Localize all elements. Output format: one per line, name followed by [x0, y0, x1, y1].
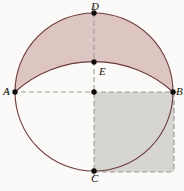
point-label-d: D	[91, 1, 99, 12]
point-label-c: C	[91, 173, 98, 184]
figure-canvas	[0, 0, 184, 191]
point-a-dot	[12, 89, 17, 94]
point-e-dot	[91, 59, 96, 64]
point-label-b: B	[176, 86, 183, 97]
point-center-dot	[91, 89, 96, 94]
point-label-e: E	[99, 66, 106, 77]
point-b-dot	[170, 89, 175, 94]
point-label-a: A	[3, 86, 10, 97]
geometry-figure: D E A B C	[0, 0, 184, 191]
